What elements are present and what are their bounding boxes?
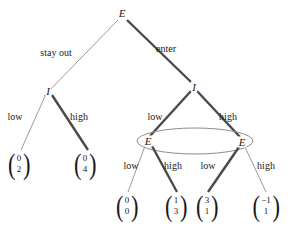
payoff-bottom: 4 — [83, 164, 88, 176]
edge-left-low — [21, 94, 46, 150]
node-right-I: I — [191, 82, 197, 93]
payoff-top: −1 — [261, 194, 271, 206]
game-tree-diagram: E I I E E stay out enter low high low hi… — [0, 0, 292, 231]
paren-left: ( — [252, 194, 260, 219]
edge-label-right-low: low — [148, 112, 163, 122]
edge-label-right-high: high — [219, 112, 237, 122]
paren-right: ) — [180, 194, 188, 219]
edge-label-stay-out: stay out — [40, 48, 71, 58]
node-left-I: I — [45, 86, 51, 97]
edge-label-left-high: high — [70, 112, 88, 122]
node-info-E-right: E — [238, 137, 247, 148]
paren-right: ) — [23, 152, 31, 177]
payoff-bottom: 0 — [125, 206, 130, 218]
paren-right: ) — [211, 194, 219, 219]
paren-left: ( — [74, 152, 82, 177]
edge-label-enter: enter — [156, 44, 176, 54]
edge-left-high — [52, 95, 88, 150]
paren-right: ) — [89, 152, 97, 177]
payoff-bottom: 1 — [205, 206, 210, 218]
payoff-vector: ( 3 1 ) — [195, 194, 220, 219]
node-root-E: E — [118, 8, 127, 19]
payoff-bottom: 2 — [17, 164, 22, 176]
payoff-top: 1 — [174, 194, 179, 206]
paren-right: ) — [131, 194, 139, 219]
edge-label-left-low: low — [8, 112, 23, 122]
edge-label-er-high: high — [257, 161, 275, 171]
payoff-vector: ( 1 3 ) — [164, 194, 189, 219]
paren-left: ( — [116, 194, 124, 219]
payoff-top: 0 — [83, 152, 88, 164]
paren-left: ( — [8, 152, 16, 177]
payoff-bottom: 3 — [174, 206, 179, 218]
payoff-top: 3 — [205, 194, 210, 206]
paren-right: ) — [272, 194, 280, 219]
payoff-top: 0 — [17, 152, 22, 164]
edge-label-er-low: low — [201, 161, 216, 171]
edge-stay-out — [44, 20, 118, 96]
payoff-top: 0 — [125, 194, 130, 206]
payoff-vector: ( −1 1 ) — [251, 194, 281, 219]
payoff-vector: ( 0 2 ) — [7, 152, 32, 177]
edge-label-el-high: high — [164, 161, 182, 171]
tree-edges-svg — [0, 0, 292, 231]
node-info-E-left: E — [144, 136, 153, 147]
payoff-bottom: 1 — [264, 206, 269, 218]
paren-left: ( — [165, 194, 173, 219]
edge-label-el-low: low — [124, 161, 139, 171]
paren-left: ( — [196, 194, 204, 219]
payoff-vector: ( 0 4 ) — [73, 152, 98, 177]
payoff-vector: ( 0 0 ) — [115, 194, 140, 219]
